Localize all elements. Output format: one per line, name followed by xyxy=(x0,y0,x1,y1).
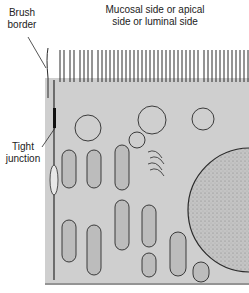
cell-illustration xyxy=(0,0,249,293)
desmosome xyxy=(50,165,58,195)
tight-junction-marker xyxy=(53,108,56,128)
brush-border-pointer xyxy=(28,37,46,68)
